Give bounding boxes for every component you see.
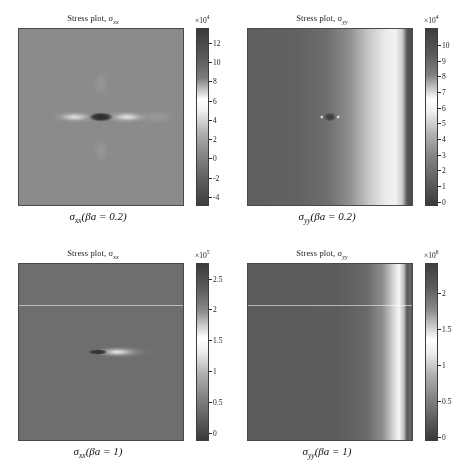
panel-caption: σyy(βa = 1) [229,445,425,460]
colorbar-tick-label: 4 [442,135,446,144]
caption-subscript: xx [79,451,86,460]
colorbar-tick-label: 0 [442,433,446,442]
panel-title-text: Stress plot, σ [296,248,342,258]
colorbar-tick-label: 5 [442,119,446,128]
colorbar-tick-label: 0 [213,429,217,438]
caption-parameter: (βa = 1) [86,445,123,457]
colorbar-tick-label: 1 [442,361,446,370]
colorbar-tick-label: 1.5 [213,336,222,345]
colorbar-tick-label: 0.5 [213,398,222,407]
texture-noise [19,264,183,440]
colorbar-tick-label: -4 [213,193,219,202]
colorbar-exponent-power: 5 [207,249,210,255]
colorbar-tick-label: 2 [442,289,446,298]
colorbar-gradient [196,28,209,206]
plot-area [18,28,184,206]
texture-noise [248,264,412,440]
colorbar-exponent-base: ×10 [195,251,207,260]
colorbar-exponent-power: 4 [436,14,439,20]
colorbar-exponent-power: 6 [436,249,439,255]
texture-noise [19,29,183,205]
caption-parameter: (βa = 0.2) [82,210,127,222]
caption-parameter: (βa = 0.2) [311,210,356,222]
plot-area [18,263,184,441]
colorbar-tick-label: 6 [213,97,217,106]
colorbar-tick-label: 10 [442,41,450,50]
colorbar-tick-label: -2 [213,174,219,183]
caption-subscript: yy [308,451,315,460]
colorbar-exponent: ×105 [195,249,209,260]
caption-parameter: (βa = 1) [315,445,352,457]
panel-title-subscript: yy [342,19,348,25]
colorbar-exponent-base: ×10 [424,251,436,260]
colorbar-tick-label: 6 [442,104,446,113]
panel-title-subscript: xx [113,19,119,25]
plot-area [247,28,413,206]
colorbar-tick-label: 8 [442,72,446,81]
panel-bottom-left: Stress plot, σxx ×105 2.5 2 1.5 1 0.5 0 … [0,235,228,470]
panel-caption: σxx(βa = 1) [0,445,196,460]
panel-caption: σxx(βa = 0.2) [0,210,196,225]
panel-title: Stress plot, σyy [229,248,415,260]
colorbar-tick-label: 3 [442,151,446,160]
colorbar-tick-label: 1 [213,367,217,376]
colorbar-tick-label: 8 [213,77,217,86]
colorbar-tick-label: 1 [442,182,446,191]
colorbar-tick-label: 2.5 [213,275,222,284]
panel-title: Stress plot, σxx [0,13,186,25]
colorbar-gradient [425,28,438,206]
colorbar-gradient [425,263,438,441]
colorbar-tick-label: 0 [213,154,217,163]
colorbar-exponent-base: ×10 [424,16,436,25]
colorbar-tick-label: 2 [213,135,217,144]
panel-caption: σyy(βa = 0.2) [229,210,425,225]
colorbar: ×104 10 9 8 7 6 5 4 3 2 1 0 [425,28,438,206]
panel-title-text: Stress plot, σ [67,248,113,258]
panel-title: Stress plot, σyy [229,13,415,25]
colorbar-tick-label: 4 [213,116,217,125]
colorbar-tick-label: 7 [442,88,446,97]
caption-subscript: xx [75,216,82,225]
colorbar-tick-label: 1.5 [442,325,451,334]
colorbar-tick-label: 10 [213,58,221,67]
colorbar: ×104 12 10 8 6 4 2 0 -2 -4 [196,28,209,206]
panel-title-subscript: yy [342,254,348,260]
panel-title-text: Stress plot, σ [67,13,113,23]
panel-top-right: Stress plot, σyy ×104 10 9 8 7 6 5 4 3 2… [229,0,457,235]
colorbar-exponent: ×104 [195,14,209,25]
panel-title-subscript: xx [113,254,119,260]
plot-area [247,263,413,441]
caption-subscript: yy [304,216,311,225]
colorbar-tick-label: 12 [213,39,221,48]
texture-noise [248,29,412,205]
stress-plot-figure: Stress plot, σxx ×104 12 10 8 6 4 2 0 -2… [0,0,457,470]
colorbar-exponent-base: ×10 [195,16,207,25]
panel-title-text: Stress plot, σ [296,13,342,23]
colorbar-tick-label: 2 [213,305,217,314]
colorbar-exponent-power: 4 [207,14,210,20]
colorbar: ×105 2.5 2 1.5 1 0.5 0 [196,263,209,441]
panel-bottom-right: Stress plot, σyy ×106 2 1.5 1 0.5 0 σyy(… [229,235,457,470]
colorbar: ×106 2 1.5 1 0.5 0 [425,263,438,441]
colorbar-tick-label: 0 [442,198,446,207]
colorbar-exponent: ×106 [424,249,438,260]
colorbar-exponent: ×104 [424,14,438,25]
colorbar-tick-label: 9 [442,57,446,66]
panel-title: Stress plot, σxx [0,248,186,260]
colorbar-tick-label: 2 [442,166,446,175]
panel-top-left: Stress plot, σxx ×104 12 10 8 6 4 2 0 -2… [0,0,228,235]
colorbar-gradient [196,263,209,441]
colorbar-tick-label: 0.5 [442,397,451,406]
